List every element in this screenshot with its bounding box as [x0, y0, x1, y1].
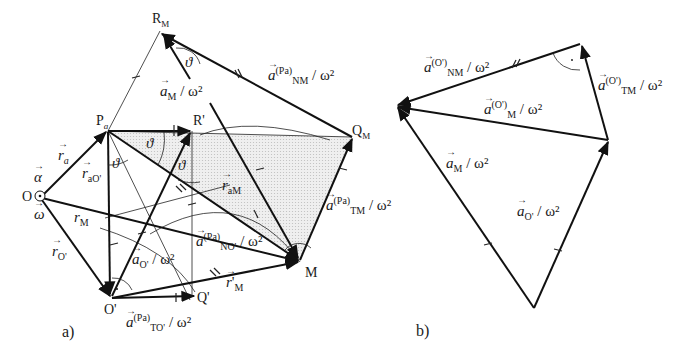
angle-theta-Rprime: ϑ	[178, 158, 185, 173]
label-a-TO-Pa: a(Pa)TO' / ω²	[126, 313, 191, 333]
caption-b: b)	[416, 323, 429, 339]
point-M: M	[305, 266, 317, 280]
label-alpha: α	[34, 170, 42, 185]
point-Rprime: R'	[193, 114, 205, 128]
label-r-aO: raO'	[82, 166, 101, 184]
label-a-TM-Pa: a(Pa)TM / ω²	[326, 196, 391, 216]
label-a-O-b: aO' / ω²	[517, 204, 560, 222]
label-a-M-b: aM / ω²	[446, 156, 488, 174]
label-a-NM-O: a(O')NM / ω²	[424, 58, 489, 78]
caption-a: a)	[62, 324, 74, 340]
label-a-TM-O: a(O')TM / ω²	[598, 76, 662, 96]
label-r-M: rM	[74, 210, 89, 228]
vectors-panel-b	[398, 44, 608, 308]
label-r-aM: raM	[222, 178, 241, 196]
label-r-a: ra	[58, 148, 69, 166]
angle-theta-rao: ϑ	[112, 156, 119, 171]
label-r-O: rO'	[52, 244, 67, 262]
label-omega: ω	[34, 207, 45, 222]
angle-theta-RM: ϑ	[185, 55, 192, 70]
label-a-NM-Pa: a(Pa)NM / ω²	[268, 66, 334, 86]
point-QM: QM	[352, 124, 370, 141]
point-O: O	[22, 190, 32, 204]
label-a-M: aM / ω²	[160, 84, 202, 102]
point-Qprime: Q'	[197, 291, 210, 305]
point-Oprime: O'	[104, 303, 117, 317]
diagram-canvas	[0, 0, 683, 354]
label-a-O: aO' / ω²	[132, 252, 175, 270]
label-a-NO-Pa: a(Pa)NO' / ω²	[196, 232, 262, 252]
label-r-prime-M: r'M	[226, 275, 243, 293]
point-RM: RM	[152, 12, 169, 29]
point-Pa: Pa	[96, 114, 108, 131]
label-a-M-O: a(O')M / ω²	[484, 100, 542, 120]
angle-theta-Pa: ϑ	[146, 136, 153, 151]
